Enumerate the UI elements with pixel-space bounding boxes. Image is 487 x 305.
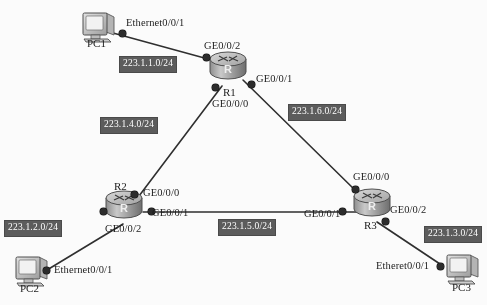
endpoint-dot-pc1 <box>119 30 126 37</box>
endpoint-dot-r3-ge002 <box>382 218 389 225</box>
subnet-label-r2-r3: 223.1.5.0/24 <box>218 219 276 236</box>
router-r2[interactable]: R <box>103 189 145 221</box>
subnet-label-pc3-r3: 223.1.3.0/24 <box>424 226 482 243</box>
r2-label: R2 <box>114 181 127 192</box>
r3-label: R3 <box>364 220 377 231</box>
endpoint-dot-r2-ge000 <box>131 191 138 198</box>
interface-label-r3-ge000: GE0/0/0 <box>353 172 389 183</box>
topology-diagram: R R R <box>0 0 487 305</box>
svg-text:R: R <box>368 200 376 212</box>
pc1-label: PC1 <box>87 38 106 49</box>
interface-label-r2-ge000: GE0/0/0 <box>143 188 179 199</box>
interface-label-pc2-eth: Ethernet0/0/1 <box>54 265 112 276</box>
svg-text:R: R <box>120 202 128 214</box>
subnet-label-r1-r2: 223.1.4.0/24 <box>100 117 158 134</box>
interface-label-r1-ge001: GE0/0/1 <box>256 74 292 85</box>
endpoint-dot-r2-ge002 <box>100 208 107 215</box>
endpoint-dot-r1-ge002 <box>203 54 210 61</box>
endpoint-dot-r1-ge000 <box>212 84 219 91</box>
svg-text:R: R <box>224 63 232 75</box>
interface-label-pc1-eth: Ethernet0/0/1 <box>126 18 184 29</box>
link-r1-r2 <box>139 86 222 196</box>
endpoint-dot-r1-ge001 <box>248 81 255 88</box>
router-r1[interactable]: R <box>207 50 249 82</box>
pc3-label: PC3 <box>452 282 471 293</box>
endpoint-dot-pc3 <box>437 263 444 270</box>
link-r1-r3 <box>243 80 358 193</box>
interface-label-r3-ge001: GE0/0/1 <box>304 209 340 220</box>
endpoint-dot-r3-ge000 <box>352 186 359 193</box>
interface-label-r1-ge002: GE0/0/2 <box>204 41 240 52</box>
pc2-label: PC2 <box>20 283 39 294</box>
interface-label-r2-ge001: GE0/0/1 <box>152 208 188 219</box>
endpoint-dot-pc2 <box>43 267 50 274</box>
subnet-label-pc1-r1: 223.1.1.0/24 <box>119 56 177 73</box>
interface-label-r3-ge002: GE0/0/2 <box>390 205 426 216</box>
interface-label-pc3-eth: Etheret0/0/1 <box>376 261 429 272</box>
interface-label-r1-ge000: GE0/0/0 <box>212 99 248 110</box>
subnet-label-r1-r3: 223.1.6.0/24 <box>288 104 346 121</box>
interface-label-r2-ge002: GE0/0/2 <box>105 224 141 235</box>
r1-label: R1 <box>223 87 236 98</box>
subnet-label-pc2-r2: 223.1.2.0/24 <box>4 220 62 237</box>
